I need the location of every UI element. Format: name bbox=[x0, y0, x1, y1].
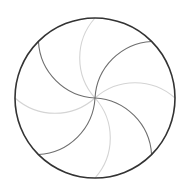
spiral-arc-dark bbox=[95, 98, 152, 155]
spiral-arc-dark bbox=[38, 41, 95, 98]
spiral-arc-dark bbox=[38, 98, 95, 155]
spiral-arc-light bbox=[95, 83, 175, 98]
spiral-arcs bbox=[15, 18, 175, 178]
spiral-arc-dark bbox=[95, 41, 152, 98]
spiral-arc-light bbox=[80, 18, 95, 98]
pinwheel-diagram bbox=[0, 0, 187, 194]
spiral-arc-light bbox=[15, 98, 95, 113]
spiral-arc-light bbox=[95, 98, 110, 178]
